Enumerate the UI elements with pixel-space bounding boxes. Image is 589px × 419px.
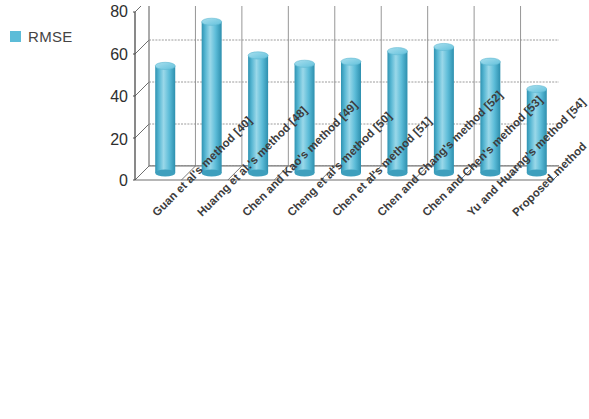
bar-top-cap [480,58,500,65]
depth-edge [135,6,149,12]
bar-top-cap [341,58,361,65]
bar-top-cap [527,85,547,92]
bar-bottom-cap [387,169,407,176]
bar-top-cap [155,62,175,69]
bar-body [155,66,175,173]
bar-bottom-cap [155,169,175,176]
y-tick-60: 60 [90,47,128,63]
depth-edge [135,82,149,96]
bar-bottom-cap [434,169,454,176]
y-tick-40: 40 [90,89,128,105]
y-tick-20: 20 [90,132,128,148]
y-axis-tick-labels: 80 60 40 20 0 [88,0,128,200]
chart-legend: RMSE [10,28,73,45]
depth-edge [135,124,149,138]
y-tick-0: 0 [90,173,128,189]
depth-edge [135,40,149,54]
bar-1 [155,62,175,176]
bar-top-cap [434,43,454,50]
bar-bottom-cap [295,169,315,176]
bar-top-cap [295,60,315,67]
legend-swatch-rmse [10,31,21,42]
bar-bottom-cap [341,169,361,176]
bar-top-cap [387,48,407,55]
x-axis-category-labels: Guan et al's method [40]Huarng et al.'s … [0,196,559,419]
bar-bottom-cap [480,169,500,176]
bar-top-cap [248,52,268,59]
legend-label-rmse: RMSE [28,28,73,45]
bar-top-cap [202,18,222,25]
y-tick-80: 80 [90,4,128,20]
